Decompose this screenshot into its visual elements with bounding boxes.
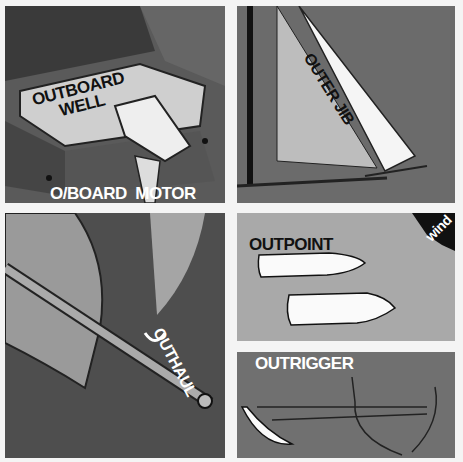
outhaul-illustration [5,213,225,458]
panel-outboard: OUTBOARD WELL O/BOARD MOTOR [5,6,225,203]
panel-outpoint: OUTPOINT wind [237,213,455,341]
outboard-motor-label: O/BOARD MOTOR [50,184,196,203]
outrigger-label: OUTRIGGER [255,354,353,374]
outpoint-label: OUTPOINT [249,235,333,255]
panel-outer-jib: OUTER JIB [237,6,455,203]
panel-outhaul: OUTHAUL [5,213,225,458]
panel-outrigger: OUTRIGGER [237,352,455,458]
